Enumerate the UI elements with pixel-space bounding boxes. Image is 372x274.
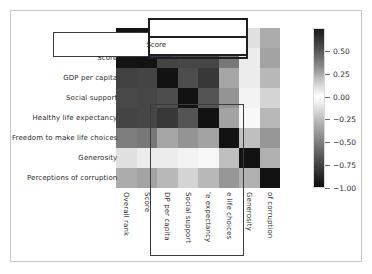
heatmap-cell bbox=[137, 68, 158, 88]
y-tick-2: GDP per capita bbox=[12, 68, 121, 88]
colorbar-tick-label: −0.50 bbox=[333, 138, 356, 147]
heatmap-cell bbox=[260, 28, 281, 48]
colorbar-tick-label: 0.50 bbox=[333, 46, 350, 55]
colorbar-tick-label: −1.00 bbox=[333, 184, 356, 193]
vertical-columns-highlight-box bbox=[150, 104, 244, 256]
heatmap-cell bbox=[260, 88, 281, 108]
colorbar-tick-label: −0.75 bbox=[333, 161, 356, 170]
colorbar-tick-mark bbox=[325, 119, 330, 120]
colorbar-gradient bbox=[313, 28, 325, 188]
x-tick-0-label: Overall rank bbox=[122, 192, 130, 236]
colorbar-tick-mark bbox=[325, 188, 330, 189]
y-tick-7: Perceptions of corruption bbox=[12, 168, 121, 188]
colorbar-tick-mark bbox=[325, 51, 330, 52]
heatmap-cell bbox=[239, 68, 260, 88]
colorbar-tick-mark bbox=[325, 74, 330, 75]
heatmap-cell bbox=[260, 48, 281, 68]
heatmap-cell bbox=[260, 148, 281, 168]
y-tick-3: Social support bbox=[12, 88, 121, 108]
y-tick-4: Healthy life expectancy bbox=[12, 108, 121, 128]
y-tick-6: Generosity bbox=[12, 148, 121, 168]
heatmap-cell bbox=[260, 68, 281, 88]
colorbar: 0.500.250.00−0.25−0.50−0.75−1.00 bbox=[313, 28, 325, 188]
score-row-highlight-label: Score bbox=[53, 32, 172, 57]
colorbar-tick-mark bbox=[325, 97, 330, 98]
colorbar-tick-label: −0.25 bbox=[333, 115, 356, 124]
colorbar-tick-label: 0.25 bbox=[333, 69, 350, 78]
heatmap-cell bbox=[260, 108, 281, 128]
heatmap-cell bbox=[219, 68, 240, 88]
x-tick-0: Overall rank bbox=[116, 190, 137, 268]
colorbar-tick-label: 0.00 bbox=[333, 92, 350, 101]
heatmap-cell bbox=[157, 68, 178, 88]
heatmap-cell bbox=[198, 68, 219, 88]
x-tick-6-label: Generosity bbox=[245, 192, 253, 231]
colorbar-tick-mark bbox=[325, 165, 330, 166]
x-tick-7-label: of corruption bbox=[266, 192, 274, 238]
heatmap-cell bbox=[178, 68, 199, 88]
y-tick-5: Freedom to make life choices bbox=[12, 128, 121, 148]
heatmap-figure: Score GDP per capita Social support Heal… bbox=[0, 0, 372, 274]
colorbar-tick-mark bbox=[325, 142, 330, 143]
heatmap-cell bbox=[260, 128, 281, 148]
x-tick-7: of corruption bbox=[260, 190, 281, 268]
heatmap-cell bbox=[260, 168, 281, 188]
